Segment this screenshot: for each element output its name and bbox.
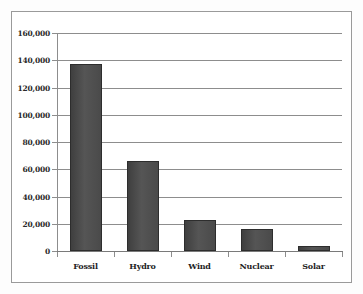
y-axis-tick-label: 40,000 [2,192,50,201]
x-axis-tick [285,252,286,257]
x-axis-category-label: Solar [302,261,325,271]
y-axis-tick-label: 140,000 [2,56,50,65]
y-axis-labels: 020,00040,00060,00080,000100,000120,0001… [0,0,50,294]
x-axis-tick [114,252,115,257]
x-axis-category-label: Nuclear [239,261,273,271]
x-axis-category-label: Wind [188,261,211,271]
bar [184,220,216,251]
x-axis-tick [228,252,229,257]
y-axis-tick-label: 160,000 [2,29,50,38]
x-axis-tick [57,252,58,257]
plot-area [57,33,342,251]
y-axis-tick-label: 0 [2,247,50,256]
gridline [57,60,342,61]
bar [70,64,102,251]
bar [127,161,159,251]
x-axis-category-label: Fossil [73,261,97,271]
x-axis-tick [342,252,343,257]
x-axis-line [57,251,343,252]
y-axis-tick-label: 80,000 [2,138,50,147]
y-axis-line [57,33,58,252]
y-axis-tick-label: 120,000 [2,83,50,92]
bar-chart-figure: 020,00040,00060,00080,000100,000120,0001… [0,0,363,294]
y-axis-tick-label: 60,000 [2,165,50,174]
x-axis-category-label: Hydro [129,261,155,271]
bar [241,229,273,251]
x-axis-tick [171,252,172,257]
gridline [57,33,342,34]
y-axis-tick-label: 100,000 [2,110,50,119]
y-axis-tick-label: 20,000 [2,219,50,228]
